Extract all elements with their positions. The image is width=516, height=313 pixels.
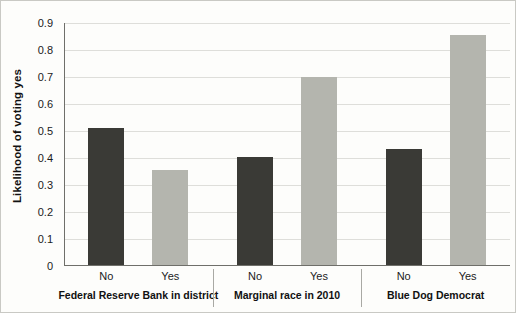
y-tick-label: 0.8 bbox=[1, 44, 53, 56]
axis-frame bbox=[64, 23, 510, 266]
group-label: Federal Reserve Bank in district bbox=[58, 289, 218, 301]
group-label: Marginal race in 2010 bbox=[234, 289, 340, 301]
category-label: No bbox=[99, 270, 113, 282]
y-tick-label: 0 bbox=[1, 260, 53, 272]
group-separator bbox=[361, 269, 362, 307]
y-tick-label: 0.5 bbox=[1, 125, 53, 137]
y-tick-label: 0.1 bbox=[1, 233, 53, 245]
category-label: Yes bbox=[310, 270, 328, 282]
group-separator bbox=[213, 269, 214, 307]
category-label: Yes bbox=[459, 270, 477, 282]
y-tick-label: 0.2 bbox=[1, 206, 53, 218]
group-label: Blue Dog Democrat bbox=[387, 289, 484, 301]
y-tick-label: 0.9 bbox=[1, 17, 53, 29]
plot-area bbox=[64, 23, 510, 266]
category-label: Yes bbox=[161, 270, 179, 282]
y-tick-label: 0.6 bbox=[1, 98, 53, 110]
category-label: No bbox=[248, 270, 262, 282]
category-label-band: NoYesFederal Reserve Bank in districtNoY… bbox=[64, 267, 510, 312]
y-tick-label: 0.3 bbox=[1, 179, 53, 191]
bar-chart-figure: Likelihood of voting yes 00.10.20.30.40.… bbox=[0, 0, 516, 313]
y-axis-tick-labels: 00.10.20.30.40.50.60.70.80.9 bbox=[1, 23, 59, 266]
y-tick-label: 0.7 bbox=[1, 71, 53, 83]
category-label: No bbox=[397, 270, 411, 282]
y-tick-label: 0.4 bbox=[1, 152, 53, 164]
